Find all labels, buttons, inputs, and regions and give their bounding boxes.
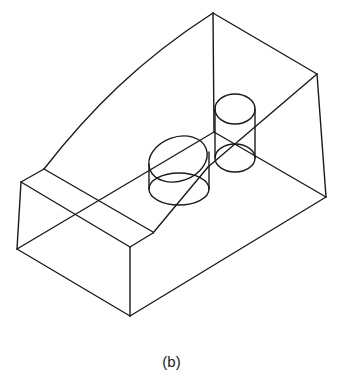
top-right-edge: [213, 13, 317, 74]
figure-caption: (b): [0, 353, 343, 370]
small-cylinder: [215, 94, 255, 172]
large-cylinder: [142, 128, 213, 205]
isometric-wireframe-figure: (b): [0, 0, 343, 382]
wireframe-drawing: [0, 0, 343, 382]
right-top-to-slope: [208, 74, 317, 167]
step-right-short-edge: [130, 233, 153, 247]
center-to-left-bottom: [17, 132, 214, 249]
center-to-right-bottom: [214, 132, 326, 197]
apex-vertical-edge: [213, 13, 214, 132]
block-outline: [17, 13, 326, 316]
left-vertical-edge: [17, 182, 21, 249]
bottom-right-edge: [130, 197, 326, 316]
curved-top-edge: [44, 13, 213, 169]
large-cylinder-bottom: [149, 173, 209, 205]
small-cylinder-top: [215, 94, 255, 124]
step-feature: [21, 167, 208, 247]
right-vertical-edge: [317, 74, 326, 197]
small-cylinder-bottom: [215, 144, 255, 172]
internal-edges: [17, 13, 326, 249]
bottom-left-edge: [17, 249, 130, 316]
step-left-short-edge: [21, 169, 44, 182]
